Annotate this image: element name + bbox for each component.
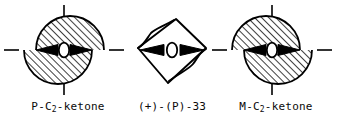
caption-prefix-m: M-C xyxy=(239,100,259,113)
oxygen-atom-p xyxy=(59,43,69,58)
structure-drawing-m xyxy=(208,0,344,100)
oxygen-atom-33 xyxy=(167,43,177,58)
chemistry-figure: P-C2-ketone (+)-(P)-33 xyxy=(0,0,344,129)
caption-prefix-33: (+)-(P)-33 xyxy=(138,100,206,113)
caption-suffix-p: -ketone xyxy=(57,100,105,113)
caption-prefix-p: P-C xyxy=(31,100,51,113)
oxygen-atom-m xyxy=(267,43,277,58)
structure-panel-m-c2-ketone: M-C2-ketone xyxy=(208,0,344,129)
caption-m-c2-ketone: M-C2-ketone xyxy=(208,100,344,114)
caption-suffix-m: -ketone xyxy=(265,100,313,113)
